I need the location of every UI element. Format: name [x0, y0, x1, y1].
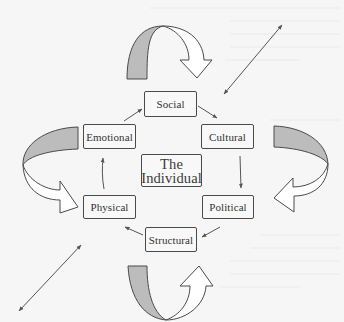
arrow-cultural-to-political-icon	[240, 156, 241, 188]
arrow-social-to-cultural-icon	[198, 106, 217, 118]
center-label-line1: The	[160, 157, 183, 171]
node-political: Political	[202, 195, 254, 219]
curved-arrow-bottom-icon	[128, 266, 213, 320]
node-physical-label: Physical	[90, 201, 128, 213]
node-social-label: Social	[156, 98, 184, 110]
node-structural: Structural	[145, 227, 197, 252]
node-the-individual: The Individual	[141, 154, 202, 187]
node-political-label: Political	[209, 201, 247, 213]
node-cultural: Cultural	[201, 124, 254, 149]
node-emotional: Emotional	[83, 124, 136, 149]
arrow-structural-to-physical-icon	[125, 227, 143, 235]
node-physical: Physical	[83, 195, 136, 219]
node-emotional-label: Emotional	[86, 131, 133, 143]
arrow-physical-to-emotional-icon	[102, 158, 104, 189]
arrow-political-to-structural-icon	[202, 227, 220, 237]
arrow-emotional-to-social-icon	[124, 109, 142, 121]
double-arrow-bottom-left-icon	[19, 245, 81, 311]
center-label-line2: Individual	[141, 171, 202, 185]
node-cultural-label: Cultural	[209, 131, 246, 143]
double-arrow-top-right-icon	[224, 25, 282, 94]
curved-arrow-left-icon	[23, 127, 78, 213]
curved-arrow-top-icon	[127, 26, 212, 79]
curved-arrow-right-icon	[274, 126, 328, 212]
node-structural-label: Structural	[149, 234, 193, 246]
node-social: Social	[144, 91, 197, 117]
